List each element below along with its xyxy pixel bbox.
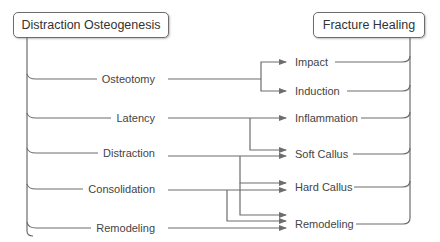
left-stage-label: Latency: [111, 112, 160, 124]
left-stage-label: Distraction: [98, 147, 160, 159]
left-stage-remodeling: Remodeling: [91, 222, 160, 234]
right-stage-hard-callus: Hard Callus: [295, 181, 352, 193]
right-stage-label: Inflammation: [295, 112, 358, 124]
left-stage-distraction: Distraction: [98, 147, 160, 159]
right-stage-label: Soft Callus: [295, 148, 348, 160]
left-stage-label: Consolidation: [83, 183, 160, 195]
left-stage-label: Remodeling: [91, 222, 160, 234]
right-stage-label: Remodeling: [295, 218, 354, 230]
left-stage-label: Osteotomy: [97, 73, 160, 85]
right-stage-inflammation: Inflammation: [295, 112, 358, 124]
right-stage-remodeling: Remodeling: [295, 218, 354, 230]
right-stage-impact: Impact: [295, 56, 328, 68]
connector-lines: [0, 0, 440, 242]
right-stage-label: Hard Callus: [295, 181, 352, 193]
left-stage-consolidation: Consolidation: [83, 183, 160, 195]
left-stage-osteotomy: Osteotomy: [97, 73, 160, 85]
right-stage-label: Induction: [295, 85, 340, 97]
right-trunk: [403, 38, 410, 224]
left-trunk: [27, 38, 33, 236]
right-stage-soft-callus: Soft Callus: [295, 148, 348, 160]
right-stage-induction: Induction: [295, 85, 340, 97]
left-stage-latency: Latency: [111, 112, 160, 124]
right-stage-label: Impact: [295, 56, 328, 68]
